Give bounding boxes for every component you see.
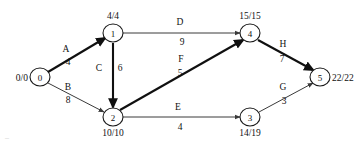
- edge-label-d: D: [177, 17, 184, 27]
- node-time-5: 22/22: [332, 73, 354, 83]
- node-time-4: 15/15: [239, 11, 261, 21]
- node-time-3: 14/19: [239, 128, 261, 138]
- edge-duration-a: 4: [66, 57, 71, 67]
- edge-duration-e: 4: [178, 122, 183, 132]
- network-diagram: 012345 A4B8C6D9E4F5G3H7 0/04/410/1014/19…: [0, 0, 363, 145]
- node-label-2: 2: [111, 113, 116, 123]
- edge-label-a: A: [63, 44, 70, 54]
- edge-duration-d: 9: [180, 37, 185, 47]
- edge-b: [48, 83, 104, 112]
- edge-label-b: B: [65, 82, 71, 92]
- edge-label-g: G: [280, 82, 287, 92]
- scan-artifact: –: [5, 133, 8, 142]
- node-time-1: 4/4: [107, 11, 119, 21]
- node-label-1: 1: [111, 29, 116, 39]
- node-time-0: 0/0: [16, 73, 28, 83]
- node-label-4: 4: [248, 29, 253, 39]
- node-label-3: 3: [248, 113, 253, 123]
- edge-label-f: F: [178, 54, 183, 64]
- node-label-5: 5: [318, 73, 323, 83]
- edge-label-h: H: [280, 39, 287, 49]
- node-label-0: 0: [38, 73, 43, 83]
- edge-label-c: C: [96, 63, 102, 73]
- edge-label-e: E: [175, 102, 181, 112]
- node-times-layer: 0/04/410/1014/1915/1522/22: [16, 11, 354, 138]
- edge-duration-f: 5: [178, 68, 183, 78]
- edge-duration-b: 8: [66, 95, 71, 105]
- diagram-canvas: 012345 A4B8C6D9E4F5G3H7 0/04/410/1014/19…: [0, 0, 363, 145]
- edge-duration-g: 3: [282, 96, 287, 106]
- edge-duration-c: 6: [118, 63, 123, 73]
- node-time-2: 10/10: [102, 128, 124, 138]
- edge-duration-h: 7: [280, 54, 285, 64]
